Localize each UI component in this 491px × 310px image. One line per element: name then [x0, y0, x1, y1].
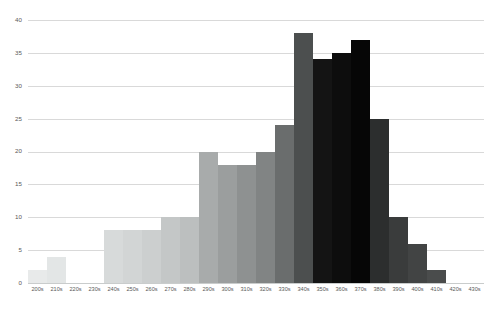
x-tick-label: 320s: [256, 286, 275, 293]
bar[interactable]: [47, 257, 66, 283]
x-tick-label: 220s: [66, 286, 85, 293]
bar[interactable]: [28, 270, 47, 283]
x-tick-label: 360s: [332, 286, 351, 293]
bar[interactable]: [389, 217, 408, 283]
bar[interactable]: [123, 230, 142, 283]
y-tick-label: 30: [15, 83, 22, 89]
x-tick-label: 310s: [237, 286, 256, 293]
y-tick-label: 10: [15, 214, 22, 220]
x-tick-label: 380s: [370, 286, 389, 293]
bar[interactable]: [199, 152, 218, 284]
x-tick-label: 390s: [389, 286, 408, 293]
y-tick-label: 5: [18, 247, 22, 253]
x-tick-label: 210s: [47, 286, 66, 293]
x-tick-label: 350s: [313, 286, 332, 293]
bar[interactable]: [218, 165, 237, 283]
x-tick-label: 280s: [180, 286, 199, 293]
x-tick-label: 250s: [123, 286, 142, 293]
bar[interactable]: [180, 217, 199, 283]
y-tick-label: 0: [18, 280, 22, 286]
x-tick-label: 200s: [28, 286, 47, 293]
y-axis: 40 35 30 25 20 15 10 5 0: [0, 0, 26, 310]
x-tick-label: 260s: [142, 286, 161, 293]
bar[interactable]: [351, 40, 370, 283]
x-tick-label: 230s: [85, 286, 104, 293]
x-tick-label: 340s: [294, 286, 313, 293]
bar[interactable]: [332, 53, 351, 283]
x-tick-label: 370s: [351, 286, 370, 293]
bar[interactable]: [370, 119, 389, 283]
y-tick-label: 15: [15, 181, 22, 187]
y-tick-label: 40: [15, 17, 22, 23]
x-tick-label: 410s: [427, 286, 446, 293]
y-tick-label: 35: [15, 50, 22, 56]
x-tick-label: 270s: [161, 286, 180, 293]
x-tick-label: 430s: [465, 286, 484, 293]
bars-layer: [28, 20, 484, 283]
bar[interactable]: [313, 59, 332, 283]
plot-area: [28, 20, 484, 283]
x-tick-label: 400s: [408, 286, 427, 293]
y-tick-label: 20: [15, 148, 22, 154]
x-axis: 200s210s220s230s240s250s260s270s280s290s…: [28, 286, 484, 306]
bar[interactable]: [275, 125, 294, 283]
x-tick-label: 330s: [275, 286, 294, 293]
x-tick-label: 290s: [199, 286, 218, 293]
x-tick-label: 240s: [104, 286, 123, 293]
bar[interactable]: [142, 230, 161, 283]
x-tick-label: 300s: [218, 286, 237, 293]
bar[interactable]: [294, 33, 313, 283]
bar[interactable]: [237, 165, 256, 283]
bar[interactable]: [161, 217, 180, 283]
bar[interactable]: [256, 152, 275, 284]
bar[interactable]: [104, 230, 123, 283]
y-tick-label: 25: [15, 116, 22, 122]
bar[interactable]: [408, 244, 427, 283]
histogram-chart: 40 35 30 25 20 15 10 5 0 200s210s220s230…: [0, 0, 491, 310]
x-tick-label: 420s: [446, 286, 465, 293]
bar[interactable]: [427, 270, 446, 283]
gridline: [28, 283, 484, 284]
